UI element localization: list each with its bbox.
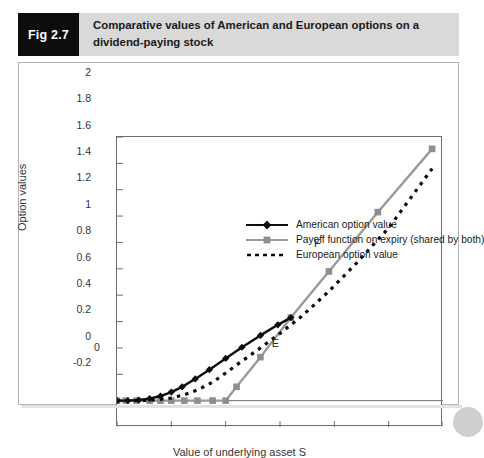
y-axis-label: Option values bbox=[16, 164, 28, 231]
x-tick-label: 0 bbox=[77, 341, 117, 353]
data-point-marker bbox=[375, 209, 382, 216]
data-point-marker bbox=[429, 146, 436, 153]
plot-area: American option value Payoff function on… bbox=[116, 136, 442, 426]
legend-label-payoff: Payoff function on expiry (shared by bot… bbox=[296, 234, 484, 246]
figure-header: Fig 2.7 Comparative values of American a… bbox=[18, 13, 459, 56]
data-point-marker bbox=[326, 268, 333, 275]
data-point-marker bbox=[194, 397, 201, 404]
legend-label-european: European option value bbox=[296, 249, 398, 261]
legend-item-european: European option value bbox=[245, 247, 484, 262]
y-tick-label: 1.8 bbox=[51, 92, 91, 104]
legend-swatch-payoff-icon bbox=[245, 234, 289, 246]
y-tick-label: 1.6 bbox=[51, 119, 91, 131]
y-tick-label: 0.4 bbox=[51, 277, 91, 289]
frame-shadow bbox=[21, 405, 462, 408]
legend-label-american: American option value bbox=[296, 219, 397, 231]
page-corner-decoration bbox=[453, 407, 483, 437]
data-point-marker bbox=[233, 383, 240, 390]
data-point-marker bbox=[209, 397, 216, 404]
legend-swatch-american-icon bbox=[245, 219, 289, 231]
y-tick-label: 0.8 bbox=[51, 224, 91, 236]
figure-title: Comparative values of American and Europ… bbox=[93, 17, 445, 50]
data-point-marker bbox=[181, 397, 188, 404]
chart-legend: American option value Payoff function on… bbox=[245, 217, 484, 262]
legend-item-payoff: Payoff function on expiry (shared by bot… bbox=[245, 232, 484, 247]
data-point-marker bbox=[257, 354, 264, 361]
y-tick-label: 1.4 bbox=[51, 145, 91, 157]
x-axis-label: Value of underlying asset S bbox=[19, 446, 460, 458]
series-line-payoff-function-on-expiry-shared-by-both bbox=[117, 149, 432, 401]
chart-annotation-e: E bbox=[272, 337, 279, 349]
legend-swatch-european-icon bbox=[245, 249, 289, 261]
y-tick-label: 0.2 bbox=[51, 303, 91, 315]
y-tick-label: 2 bbox=[51, 66, 91, 78]
legend-item-american: American option value bbox=[245, 217, 484, 232]
y-tick-label: 1 bbox=[51, 198, 91, 210]
chart-annotation-f: F bbox=[314, 237, 321, 249]
y-tick-label: 1.2 bbox=[51, 171, 91, 183]
chart-frame: Option values -0.200.20.40.60.811.21.41.… bbox=[18, 62, 459, 405]
data-point-marker bbox=[222, 397, 229, 404]
figure-number-badge: Fig 2.7 bbox=[18, 13, 79, 56]
y-tick-label: -0.2 bbox=[51, 356, 91, 368]
y-tick-label: 0.6 bbox=[51, 251, 91, 263]
chart-canvas bbox=[117, 137, 443, 427]
